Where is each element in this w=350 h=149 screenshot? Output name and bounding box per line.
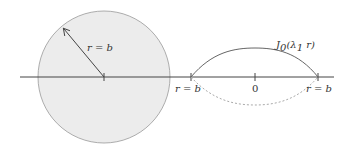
- radius-label: r = b: [87, 42, 113, 53]
- center-label: 0: [252, 83, 258, 94]
- membrane-mode-diagram: r = b J0(λ1 r) r = b 0 r = b: [0, 0, 350, 149]
- right-endpoint-label: r = b: [306, 83, 332, 94]
- curve-label: J0(λ1 r): [274, 39, 315, 53]
- left-endpoint-label: r = b: [175, 83, 201, 94]
